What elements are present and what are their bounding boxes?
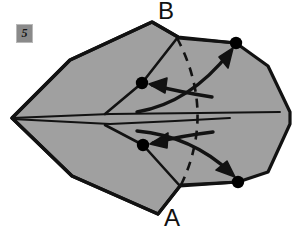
paper-silhouette: [12, 22, 290, 214]
vertex-label-a: A: [164, 204, 180, 232]
diagram-canvas: [0, 0, 297, 238]
upper-outer-dot: [230, 37, 242, 49]
lower-inner-dot: [137, 139, 149, 151]
vertex-label-b: B: [158, 0, 174, 25]
step-number-badge: 5: [16, 24, 33, 43]
lower-outer-dot: [232, 176, 244, 188]
upper-inner-dot: [136, 77, 148, 89]
origami-step-figure: 5 B A: [0, 0, 297, 238]
